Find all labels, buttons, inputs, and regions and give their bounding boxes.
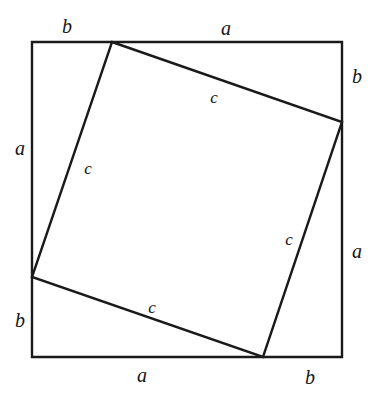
label-c-bottom-left: c [148,299,156,316]
figure-svg [0,0,384,396]
label-b-right-top: b [352,66,362,86]
label-b-bottom-right: b [305,367,315,387]
label-a-top: a [221,18,231,38]
label-c-top-right: c [210,89,218,106]
label-b-left-bottom: b [15,310,25,330]
diagram-background [0,0,384,396]
label-a-left: a [15,138,25,158]
label-a-bottom: a [137,365,147,385]
label-c-top-left: c [84,160,92,177]
label-a-right-bottom: a [352,241,362,261]
label-b-top-left: b [62,16,72,36]
pythagorean-diagram: b a b a a b a b c c c c [0,0,384,396]
label-c-bottom-right: c [285,231,293,248]
